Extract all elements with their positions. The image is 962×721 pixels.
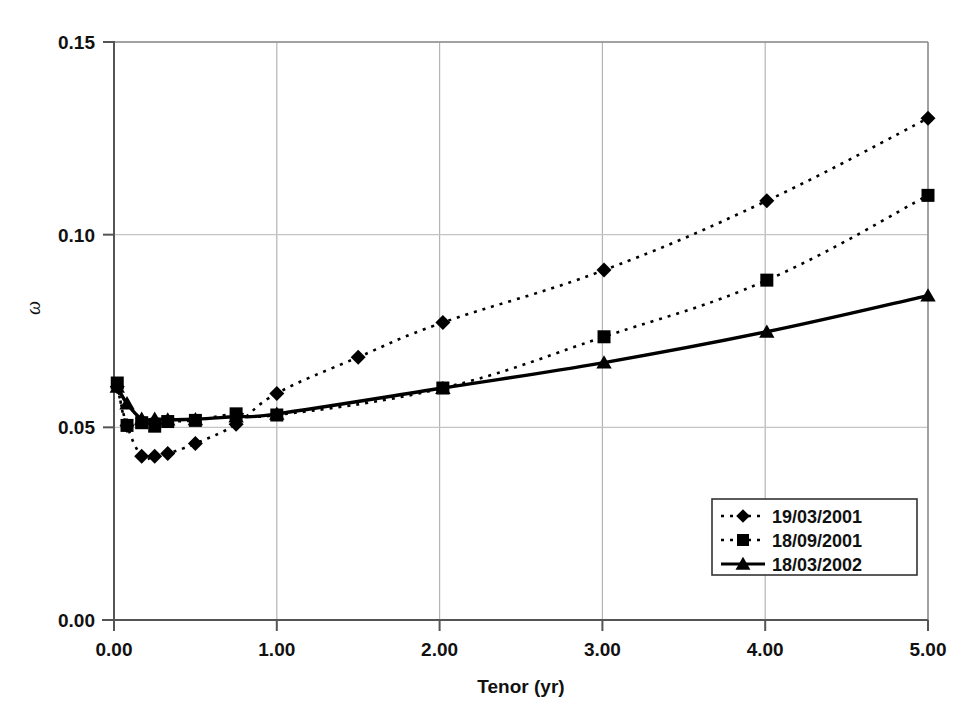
- series-3: [110, 288, 936, 425]
- line-chart: 0.000.050.100.15 0.001.002.003.004.005.0…: [0, 0, 962, 721]
- y-tick-label: 0.05: [58, 417, 95, 438]
- chart-legend: 19/03/200118/09/200118/03/2002: [712, 499, 917, 575]
- data-point: [147, 449, 162, 464]
- y-tick-labels: 0.000.050.100.15: [58, 32, 95, 631]
- data-point: [351, 350, 366, 365]
- figure-caption: [8, 700, 948, 721]
- legend-marker-square: [737, 534, 749, 546]
- series-line: [117, 296, 928, 421]
- x-tick-label: 0.00: [96, 639, 133, 660]
- data-point: [759, 193, 774, 208]
- x-tick-label: 5.00: [910, 639, 947, 660]
- x-tick-label: 1.00: [258, 639, 295, 660]
- axis-titles: Tenor (yr)ω: [22, 301, 565, 697]
- series-line: [117, 195, 928, 428]
- legend-label: 19/03/2001: [772, 507, 862, 527]
- x-tick-label: 3.00: [584, 639, 621, 660]
- x-tick-label: 4.00: [747, 639, 784, 660]
- data-point: [134, 449, 149, 464]
- y-tick-label: 0.10: [58, 225, 95, 246]
- data-point: [121, 419, 134, 432]
- data-point: [597, 263, 612, 278]
- x-axis-title: Tenor (yr): [477, 676, 564, 697]
- data-point: [598, 330, 611, 343]
- y-tick-label: 0.15: [58, 32, 95, 53]
- data-point: [922, 189, 935, 202]
- series-2: [111, 189, 935, 433]
- figure-root: 0.000.050.100.15 0.001.002.003.004.005.0…: [0, 0, 962, 721]
- x-tick-labels: 0.001.002.003.004.005.00: [96, 639, 947, 660]
- legend-label: 18/03/2002: [772, 555, 862, 575]
- legend-label: 18/09/2001: [772, 531, 862, 551]
- y-axis-title: ω: [22, 301, 44, 315]
- data-point: [921, 111, 936, 126]
- x-tick-label: 2.00: [421, 639, 458, 660]
- data-series: [110, 111, 936, 464]
- data-point: [160, 446, 175, 461]
- y-tick-label: 0.00: [58, 610, 95, 631]
- data-point: [269, 386, 284, 401]
- data-point: [435, 315, 450, 330]
- data-point: [188, 436, 203, 451]
- data-point: [920, 288, 935, 301]
- data-point: [760, 274, 773, 287]
